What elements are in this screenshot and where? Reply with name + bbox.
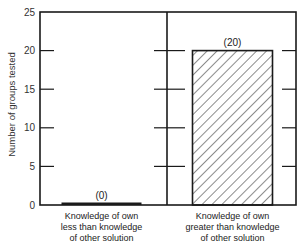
bar-chart: 0510152025Number of groups tested(0)Know… <box>0 0 305 250</box>
y-axis-label: Number of groups tested <box>6 52 17 157</box>
bar-zero <box>62 203 142 206</box>
category-label: greater than knowledge <box>185 222 279 232</box>
y-tick-label: 20 <box>24 45 36 56</box>
category-label: less than knowledge <box>61 222 143 232</box>
category-label: of other solution <box>69 233 133 243</box>
y-tick-label: 25 <box>24 7 36 18</box>
bar-value-label: (0) <box>95 190 107 201</box>
category-label: of other solution <box>200 233 264 243</box>
bar-hatched <box>193 51 273 205</box>
bar-value-label: (20) <box>224 37 242 48</box>
category-label: Knowledge of own <box>65 211 139 221</box>
category-label: Knowledge of own <box>196 211 270 221</box>
y-tick-label: 15 <box>24 84 36 95</box>
y-tick-label: 0 <box>29 200 35 211</box>
y-tick-label: 5 <box>29 161 35 172</box>
y-tick-label: 10 <box>24 122 36 133</box>
